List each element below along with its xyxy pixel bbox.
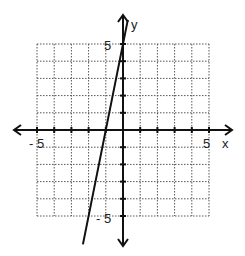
coordinate-plane: y x - 5 5 5 - 5 (0, 0, 245, 256)
x-axis-label: x (222, 136, 229, 151)
y-axis-label: y (131, 17, 138, 32)
y-max-tick-label: 5 (104, 38, 111, 53)
x-min-tick-label: - 5 (29, 136, 44, 151)
y-min-tick-label: - 5 (96, 211, 111, 226)
x-max-tick-label: 5 (203, 136, 210, 151)
